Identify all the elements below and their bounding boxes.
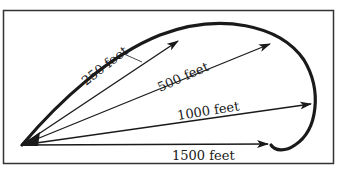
arrow-1500-feet (22, 144, 268, 145)
distance-diagram: 250 feet 500 feet 1000 feet 1500 feet (0, 0, 340, 171)
label-500-feet: 500 feet (155, 59, 211, 95)
arrow-500-feet (22, 44, 270, 145)
arrow-250-feet (22, 41, 178, 145)
label-1000-feet: 1000 feet (176, 98, 241, 123)
label-1500-feet: 1500 feet (172, 148, 235, 163)
arrow-1000-feet (22, 104, 311, 145)
label-250-feet: 250 feet (79, 43, 132, 89)
